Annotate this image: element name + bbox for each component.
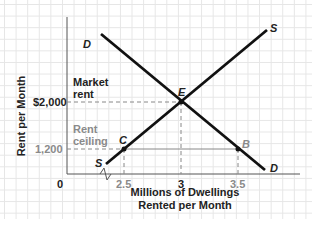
rent-ceiling-label-2: ceiling — [73, 135, 108, 148]
y-axis-label: Rent per Month — [15, 71, 27, 161]
point-c-label: C — [119, 134, 127, 147]
supply-label-bottom: S — [95, 157, 102, 170]
supply-label-top: S — [270, 22, 277, 35]
x-tick-0: 0 — [57, 178, 63, 191]
point-e-label: E — [178, 86, 185, 99]
y-tick-1200: 1,200 — [35, 143, 63, 156]
x-axis-label-line1: Millions of Dwellings — [130, 186, 240, 199]
market-rent-label-2: rent — [73, 88, 94, 101]
y-tick-2000: $2,000 — [33, 96, 67, 109]
point-b — [236, 147, 241, 152]
x-tick-2-5: 2.5 — [116, 178, 131, 191]
demand-label-bottom: D — [270, 162, 278, 175]
x-axis-label: Millions of Dwellings Rented per Month — [130, 186, 240, 212]
point-e — [179, 100, 184, 105]
point-b-label: B — [242, 138, 250, 151]
x-axis-label-line2: Rented per Month — [130, 199, 240, 212]
demand-label-top: D — [83, 38, 91, 51]
point-c — [122, 147, 127, 152]
